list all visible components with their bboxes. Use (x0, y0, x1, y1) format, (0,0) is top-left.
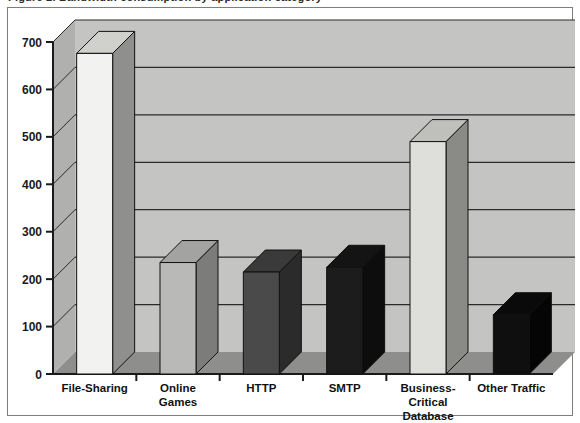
y-axis-tick-label: 400 (22, 178, 42, 192)
y-axis-tick-label: 600 (22, 83, 42, 97)
bar-front-face (160, 263, 196, 374)
y-axis-tick-label: 700 (22, 36, 42, 50)
bar-front-face (243, 272, 279, 374)
bar-front-face (327, 267, 363, 374)
bar-column (77, 31, 135, 374)
bar-front-face (493, 315, 529, 374)
y-axis-tick-label: 200 (22, 273, 42, 287)
bar-side-face (113, 31, 135, 374)
x-axis-category-label: SMTP (329, 382, 361, 394)
bar-column (410, 120, 468, 374)
plot-back-wall (75, 20, 575, 352)
x-axis-category-label: Online (160, 382, 196, 394)
bar-chart: 0100200300400500600700File-SharingOnline… (0, 0, 580, 423)
x-axis-category-label: Other Traffic (477, 382, 546, 394)
y-axis-tick-label: 0 (35, 368, 42, 382)
x-axis-category-label: File-Sharing (61, 382, 127, 394)
x-axis-category-label: Business- (401, 382, 456, 394)
bar-column (160, 241, 218, 374)
y-axis-tick-label: 300 (22, 225, 42, 239)
bar-column (243, 250, 301, 374)
chart-page: Figure 2. Bandwidth consumption by appli… (0, 0, 580, 423)
bar-side-face (446, 120, 468, 374)
bar-side-face (196, 241, 218, 374)
x-axis-category-label: Games (159, 396, 197, 408)
bar-front-face (410, 142, 446, 374)
x-axis-category-label: HTTP (246, 382, 276, 394)
bar-column (327, 245, 385, 374)
y-axis-tick-label: 100 (22, 320, 42, 334)
y-axis-tick-label: 500 (22, 130, 42, 144)
plot-left-wall (53, 20, 75, 374)
x-axis-category-label: Database (402, 410, 453, 422)
x-axis-category-label: Critical (409, 396, 448, 408)
bar-front-face (77, 53, 113, 374)
